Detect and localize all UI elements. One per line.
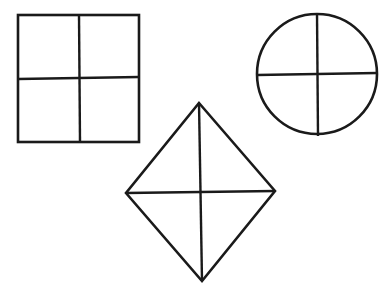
square-quartered <box>18 15 139 142</box>
figure-canvas <box>0 0 392 299</box>
shapes-diagram <box>0 0 392 299</box>
diamond-quartered <box>126 103 275 281</box>
square-horizontal-divider <box>18 77 139 79</box>
diamond-horizontal-divider <box>126 191 275 193</box>
circle-quartered <box>257 13 377 136</box>
circle-horizontal-divider <box>257 73 377 75</box>
